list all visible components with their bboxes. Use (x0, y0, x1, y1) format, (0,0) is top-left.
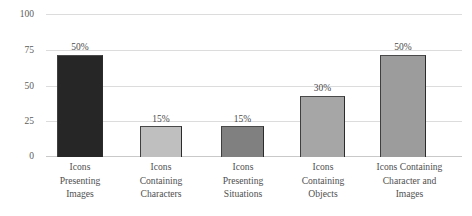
bar-icons-presenting-situations[interactable] (221, 126, 264, 157)
category-label-2: Icons Presenting Situations (197, 160, 289, 201)
category-label-0: Icons Presenting Images (34, 160, 126, 201)
ytick-label-75: 75 (0, 45, 34, 55)
category-label-1-line-3: Characters (115, 187, 207, 201)
category-label-3-line-2: Containing (277, 174, 369, 188)
category-label-3-line-3: Objects (277, 187, 369, 201)
bars-layer: 50% 15% 15% 30% 50% (46, 14, 462, 157)
category-label-4-line-3: Images (357, 187, 462, 201)
bar-value-1: 15% (152, 114, 169, 125)
bar-group-4: 50% (380, 14, 426, 157)
category-label-4-line-1: Icons Containing (357, 160, 462, 174)
category-label-0-line-2: Presenting (34, 174, 126, 188)
bar-group-3: 30% (300, 14, 345, 157)
bar-group-2: 15% (221, 14, 264, 157)
category-label-3: Icons Containing Objects (277, 160, 369, 201)
category-label-2-line-1: Icons (197, 160, 289, 174)
category-label-2-line-2: Presenting (197, 174, 289, 188)
bar-icons-presenting-images[interactable] (57, 55, 103, 157)
category-label-4-line-2: Character and (357, 174, 462, 188)
bar-icons-containing-objects[interactable] (300, 96, 345, 157)
ytick-label-50: 50 (0, 81, 34, 91)
category-label-1-line-1: Icons (115, 160, 207, 174)
category-label-1: Icons Containing Characters (115, 160, 207, 201)
bar-group-1: 15% (140, 14, 182, 157)
bar-group-0: 50% (57, 14, 103, 157)
bar-icons-containing-characters[interactable] (140, 126, 182, 157)
bar-value-0: 50% (71, 42, 88, 53)
category-label-3-line-1: Icons (277, 160, 369, 174)
category-label-1-line-2: Containing (115, 174, 207, 188)
bar-chart: 100 75 50 25 0 50% (0, 0, 472, 216)
category-axis-labels: Icons Presenting Images Icons Containing… (46, 160, 462, 212)
category-label-4: Icons Containing Character and Images (357, 160, 462, 201)
category-label-0-line-1: Icons (34, 160, 126, 174)
bar-value-2: 15% (234, 114, 251, 125)
bar-value-4: 50% (394, 42, 411, 53)
ytick-label-25: 25 (0, 116, 34, 126)
bar-value-3: 30% (314, 83, 331, 94)
category-label-0-line-3: Images (34, 187, 126, 201)
ytick-label-100: 100 (0, 9, 34, 19)
category-label-2-line-3: Situations (197, 187, 289, 201)
bar-icons-containing-character-and-images[interactable] (380, 55, 426, 157)
ytick-label-0: 0 (0, 151, 34, 161)
plot-area: 100 75 50 25 0 50% (46, 14, 462, 157)
